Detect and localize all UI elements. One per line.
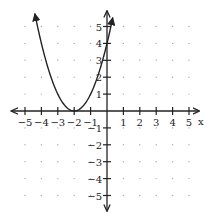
svg-text:x: x <box>198 116 204 127</box>
svg-text:−2: −2 <box>87 140 102 151</box>
svg-text:−5: −5 <box>18 117 33 128</box>
svg-text:4: 4 <box>96 38 102 49</box>
svg-text:−2: −2 <box>67 117 82 128</box>
svg-text:3: 3 <box>153 117 159 128</box>
svg-text:−5: −5 <box>87 191 102 202</box>
svg-text:−1: −1 <box>87 123 102 134</box>
graph: −5−4−3−2−112345x54321−1−2−3−4−5 <box>0 0 210 218</box>
svg-text:5: 5 <box>96 22 102 33</box>
svg-text:1: 1 <box>120 117 126 128</box>
svg-text:−4: −4 <box>34 117 49 128</box>
svg-text:−3: −3 <box>50 117 65 128</box>
svg-text:2: 2 <box>137 117 143 128</box>
svg-text:−4: −4 <box>87 174 102 185</box>
svg-text:4: 4 <box>169 117 175 128</box>
svg-text:1: 1 <box>96 89 102 100</box>
svg-text:5: 5 <box>186 117 192 128</box>
svg-text:−3: −3 <box>87 157 102 168</box>
axes <box>12 11 199 210</box>
